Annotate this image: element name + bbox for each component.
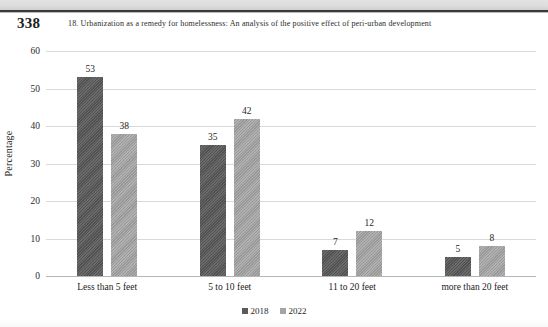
bar-value-label: 42 bbox=[227, 106, 267, 116]
bar-value-label: 5 bbox=[438, 244, 478, 254]
bar-2022-4[interactable] bbox=[479, 246, 505, 276]
bar-value-label: 8 bbox=[472, 233, 512, 243]
bar-value-label: 7 bbox=[315, 237, 355, 247]
bar-value-label: 38 bbox=[104, 121, 144, 131]
page-number: 338 bbox=[17, 15, 40, 32]
legend-item-2018[interactable]: 2018 bbox=[242, 306, 269, 316]
legend-swatch-icon bbox=[242, 308, 248, 314]
y-axis-tick: 20 bbox=[31, 196, 41, 206]
running-head: 338 18. Urbanization as a remedy for hom… bbox=[0, 14, 548, 36]
bar-2018-3[interactable] bbox=[322, 250, 348, 276]
bar-value-label: 53 bbox=[70, 64, 110, 74]
bar-2018-1[interactable] bbox=[77, 77, 103, 276]
bar-2022-2[interactable] bbox=[234, 119, 260, 277]
bar-chart: Percentage 0102030405060 5338354271258 L… bbox=[0, 40, 548, 327]
y-axis-tick: 50 bbox=[31, 84, 41, 94]
y-axis-tick: 0 bbox=[35, 271, 40, 281]
bar-value-label: 35 bbox=[193, 132, 233, 142]
header-rule-shadow bbox=[0, 12, 548, 13]
y-axis-tick: 10 bbox=[31, 234, 41, 244]
bar-2018-4[interactable] bbox=[445, 257, 471, 276]
bar-group: 3542 bbox=[169, 51, 292, 276]
y-axis-tick: 60 bbox=[31, 46, 41, 56]
legend-item-2022[interactable]: 2022 bbox=[280, 306, 307, 316]
bar-2022-1[interactable] bbox=[111, 134, 137, 277]
chapter-title: 18. Urbanization as a remedy for homeles… bbox=[68, 19, 431, 28]
bar-groups: 5338354271258 bbox=[46, 51, 536, 276]
x-axis-category-label: more than 20 feet bbox=[414, 282, 537, 292]
legend-swatch-icon bbox=[280, 308, 286, 314]
legend: 20182022 bbox=[0, 306, 548, 316]
bar-value-label: 12 bbox=[349, 218, 389, 228]
x-axis-line bbox=[46, 276, 536, 277]
bar-2018-2[interactable] bbox=[200, 145, 226, 276]
x-axis-category-label: Less than 5 feet bbox=[46, 282, 169, 292]
y-axis-tick: 40 bbox=[31, 121, 41, 131]
bar-group: 5338 bbox=[46, 51, 169, 276]
x-axis-category-label: 5 to 10 feet bbox=[169, 282, 292, 292]
bar-group: 712 bbox=[291, 51, 414, 276]
scan-artifact-band bbox=[0, 0, 548, 10]
plot-area: 5338354271258 bbox=[46, 51, 536, 276]
y-axis-tick-labels: 0102030405060 bbox=[0, 51, 40, 276]
x-axis-category-labels: Less than 5 feet5 to 10 feet11 to 20 fee… bbox=[46, 282, 536, 298]
legend-label: 2018 bbox=[251, 306, 269, 316]
bar-2022-3[interactable] bbox=[356, 231, 382, 276]
y-axis-tick: 30 bbox=[31, 159, 41, 169]
legend-label: 2022 bbox=[289, 306, 307, 316]
bar-group: 58 bbox=[414, 51, 537, 276]
x-axis-category-label: 11 to 20 feet bbox=[291, 282, 414, 292]
